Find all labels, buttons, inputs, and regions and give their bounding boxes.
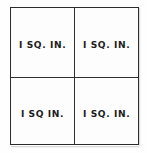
grid-cell-label: I SQ. IN. (19, 39, 66, 50)
grid-cell-top-right: I SQ. IN. (75, 8, 139, 77)
grid-cell-label: I SQ IN. (21, 108, 64, 119)
scan-shadow-right (139, 8, 141, 146)
outer-square-border: I SQ. IN. I SQ. IN. I SQ IN. I SQ. IN. (10, 7, 139, 145)
grid-cell-label: I SQ. IN. (83, 39, 130, 50)
grid-cell-bottom-right: I SQ. IN. (75, 78, 139, 146)
grid-cell-bottom-left: I SQ IN. (11, 78, 74, 146)
grid-cell-top-left: I SQ. IN. (11, 8, 74, 77)
grid-cell-label: I SQ. IN. (83, 108, 130, 119)
scan-shadow-bottom (11, 146, 139, 148)
figure-root: I SQ. IN. I SQ. IN. I SQ IN. I SQ. IN. (0, 0, 147, 153)
